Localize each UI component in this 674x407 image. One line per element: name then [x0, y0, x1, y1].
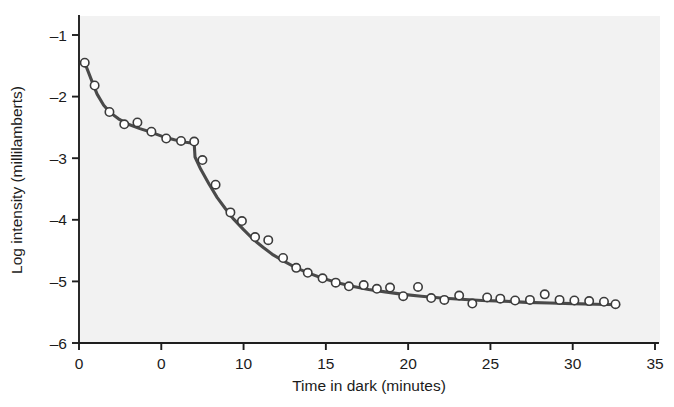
- data-point-marker: [496, 294, 504, 302]
- data-point-marker: [264, 236, 272, 244]
- data-point-marker: [541, 290, 549, 298]
- y-tick-label: –5: [50, 273, 67, 290]
- y-tick-label: –1: [50, 27, 67, 44]
- data-point-marker: [373, 285, 381, 293]
- data-point-marker: [585, 297, 593, 305]
- dark-adaptation-chart-figure: –1–2–3–4–5–6 00101520253035 Time in dark…: [0, 0, 674, 407]
- data-point-marker: [190, 137, 198, 145]
- data-point-marker: [455, 291, 463, 299]
- data-point-marker: [226, 208, 234, 216]
- data-point-marker: [90, 81, 98, 89]
- x-tick-label: 30: [564, 355, 582, 372]
- data-point-marker: [238, 217, 246, 225]
- x-tick-label: 0: [75, 355, 84, 372]
- data-point-marker: [483, 293, 491, 301]
- data-point-marker: [177, 137, 185, 145]
- x-axis-ticks: 00101520253035: [75, 343, 664, 372]
- y-axis-title: Log intensity (millilamberts): [8, 86, 25, 274]
- y-axis-ticks: –1–2–3–4–5–6: [50, 27, 79, 352]
- data-point-marker: [304, 269, 312, 277]
- data-point-marker: [133, 118, 141, 126]
- chart-canvas: –1–2–3–4–5–6 00101520253035 Time in dark…: [0, 0, 674, 407]
- data-point-marker: [332, 278, 340, 286]
- data-point-marker: [105, 108, 113, 116]
- x-tick-label: 20: [400, 355, 418, 372]
- y-tick-label: –2: [50, 88, 67, 105]
- data-point-marker: [440, 296, 448, 304]
- data-point-marker: [292, 264, 300, 272]
- x-axis-title: Time in dark (minutes): [292, 377, 446, 394]
- x-tick-label: 0: [157, 355, 166, 372]
- data-point-marker: [468, 299, 476, 307]
- data-point-marker: [511, 296, 519, 304]
- y-tick-label: –3: [50, 150, 67, 167]
- data-point-marker: [570, 296, 578, 304]
- data-point-marker: [414, 283, 422, 291]
- plot-area-background: [79, 16, 660, 343]
- data-point-marker: [120, 120, 128, 128]
- y-tick-label: –6: [50, 335, 67, 352]
- data-point-marker: [81, 59, 89, 67]
- data-point-marker: [611, 300, 619, 308]
- data-point-marker: [386, 283, 394, 291]
- data-point-marker: [399, 292, 407, 300]
- y-tick-label: –4: [50, 211, 68, 228]
- x-tick-label: 25: [482, 355, 499, 372]
- data-point-marker: [345, 282, 353, 290]
- data-point-marker: [526, 296, 534, 304]
- data-point-marker: [162, 134, 170, 142]
- data-point-marker: [427, 294, 435, 302]
- data-point-marker: [251, 233, 259, 241]
- data-point-marker: [318, 274, 326, 282]
- data-point-marker: [555, 296, 563, 304]
- data-point-marker: [279, 254, 287, 262]
- x-tick-label: 15: [317, 355, 334, 372]
- x-tick-label: 10: [235, 355, 253, 372]
- data-point-marker: [360, 281, 368, 289]
- x-tick-label: 35: [646, 355, 663, 372]
- data-point-marker: [198, 156, 206, 164]
- data-point-marker: [600, 298, 608, 306]
- data-point-marker: [147, 128, 155, 136]
- data-point-marker: [211, 180, 219, 188]
